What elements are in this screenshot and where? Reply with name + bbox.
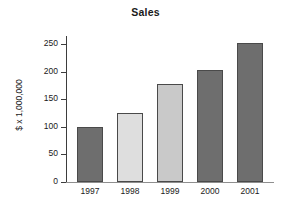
x-axis-baseline: [66, 182, 274, 183]
x-tick-label-1997: 1997: [70, 186, 110, 196]
y-tick-mark: [61, 127, 66, 128]
bar-1997: [77, 127, 103, 182]
x-tick-label-1999: 1999: [150, 186, 190, 196]
y-axis-spine: [66, 36, 67, 182]
bar-1999: [157, 84, 183, 182]
y-tick-mark: [61, 154, 66, 155]
y-tick-label: 100: [20, 121, 58, 131]
y-tick-label: 200: [20, 66, 58, 76]
y-tick-mark: [61, 72, 66, 73]
y-tick-label: 0: [20, 176, 58, 186]
y-tick-label: 50: [20, 148, 58, 158]
sales-bar-chart: Sales $ x 1,000,000 050100150200250 1997…: [0, 0, 291, 211]
y-tick-label: 250: [20, 38, 58, 48]
x-tick-label-2000: 2000: [190, 186, 230, 196]
y-tick-mark: [61, 182, 66, 183]
x-tick-label-1998: 1998: [110, 186, 150, 196]
bar-2001: [237, 43, 263, 182]
bar-1998: [117, 113, 143, 182]
y-tick-mark: [61, 44, 66, 45]
plot-area: 050100150200250 19971998199920002001: [0, 0, 291, 211]
y-tick-mark: [61, 99, 66, 100]
y-tick-label: 150: [20, 93, 58, 103]
x-tick-label-2001: 2001: [230, 186, 270, 196]
bar-2000: [197, 70, 223, 182]
